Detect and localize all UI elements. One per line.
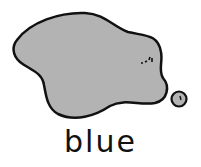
figure-label: blue: [0, 124, 201, 159]
small-circle: [172, 92, 187, 107]
small-circle-mark: [180, 96, 181, 100]
blob-shape: [14, 13, 167, 118]
